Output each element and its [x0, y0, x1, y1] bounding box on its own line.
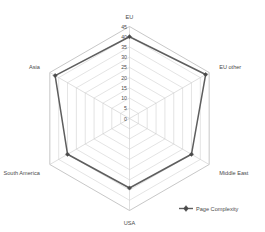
radial-tick-15: 15	[121, 85, 127, 91]
axis-spoke-asia	[50, 73, 130, 119]
radar-chart-svg: 051015202530354045 EUEU otherMiddle East…	[0, 0, 265, 232]
radial-tick-10: 10	[121, 95, 127, 101]
category-label-middle-east: Middle East	[219, 170, 249, 176]
radial-tick-labels: 051015202530354045	[121, 24, 127, 122]
radial-tick-30: 30	[121, 54, 127, 60]
category-label-eu: EU	[126, 14, 134, 20]
category-label-asia: Asia	[29, 64, 41, 70]
axis-spoke-south-america	[50, 119, 130, 165]
radial-tick-35: 35	[121, 44, 127, 50]
chart-legend[interactable]: Page Complexity	[179, 206, 238, 212]
legend-marker-swatch	[184, 206, 189, 212]
radial-tick-25: 25	[121, 64, 127, 70]
radial-tick-20: 20	[121, 75, 127, 81]
category-label-south-america: South America	[3, 170, 40, 176]
radar-chart-container: 051015202530354045 EUEU otherMiddle East…	[0, 0, 265, 232]
radial-tick-0: 0	[124, 116, 127, 122]
radial-tick-40: 40	[121, 34, 127, 40]
axis-spoke-eu-other	[130, 73, 210, 119]
radial-tick-5: 5	[124, 105, 127, 111]
radar-spokes	[50, 27, 209, 211]
category-label-eu-other: EU other	[219, 64, 241, 70]
category-label-usa: USA	[124, 220, 136, 226]
legend-label-page-complexity: Page Complexity	[196, 206, 238, 212]
radial-tick-45: 45	[121, 24, 127, 30]
series-polygon-0	[55, 37, 205, 188]
